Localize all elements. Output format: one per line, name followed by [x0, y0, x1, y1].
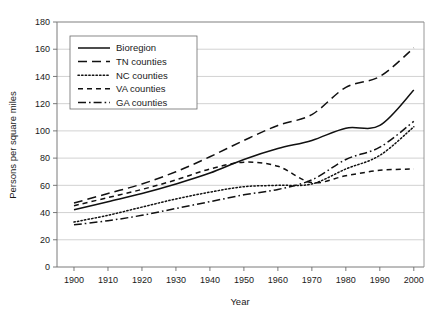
series-line-nc-counties: [74, 127, 414, 222]
y-tick-label: 20: [40, 235, 50, 245]
y-tick-label: 80: [40, 153, 50, 163]
x-tick-label: 1930: [166, 275, 186, 285]
y-tick-label: 40: [40, 208, 50, 218]
y-tick-labels: 020406080100120140160180: [35, 17, 50, 272]
y-axis-title: Persons per square miles: [7, 91, 18, 199]
y-tick-label: 60: [40, 181, 50, 191]
y-tick-label: 120: [35, 99, 50, 109]
x-tick-label: 1980: [336, 275, 356, 285]
x-tick-marks: [74, 267, 414, 271]
y-tick-label: 140: [35, 72, 50, 82]
legend-label-ga-counties: GA counties: [116, 97, 167, 108]
y-tick-label: 180: [35, 17, 50, 27]
x-tick-label: 1960: [268, 275, 288, 285]
x-tick-label: 1920: [132, 275, 152, 285]
chart-legend: BioregionTN countiesNC countiesVA counti…: [70, 36, 197, 109]
population-density-line-chart: 020406080100120140160180 190019101920193…: [0, 0, 443, 317]
legend-label-bioregion: Bioregion: [116, 42, 156, 53]
x-axis-title: Year: [230, 296, 249, 307]
y-tick-label: 100: [35, 126, 50, 136]
x-tick-label: 1990: [370, 275, 390, 285]
chart-canvas: 020406080100120140160180 190019101920193…: [0, 0, 443, 317]
x-tick-label: 1900: [64, 275, 84, 285]
x-tick-labels: 1900191019201930194019501960197019801990…: [64, 275, 424, 285]
y-tick-marks: [53, 22, 57, 267]
x-tick-label: 1940: [200, 275, 220, 285]
legend-label-va-counties: VA counties: [116, 83, 166, 94]
series-line-va-counties: [74, 162, 414, 206]
x-tick-label: 2000: [404, 275, 424, 285]
y-tick-label: 160: [35, 44, 50, 54]
y-tick-label: 0: [45, 262, 50, 272]
x-tick-label: 1970: [302, 275, 322, 285]
x-tick-label: 1910: [98, 275, 118, 285]
x-tick-label: 1950: [234, 275, 254, 285]
legend-label-tn-counties: TN counties: [116, 56, 167, 67]
legend-label-nc-counties: NC counties: [116, 70, 168, 81]
